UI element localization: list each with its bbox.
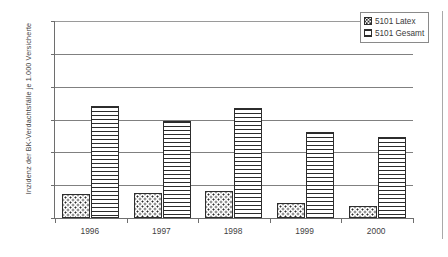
- x-tick-mark: [270, 218, 271, 223]
- bar-group: [127, 21, 199, 218]
- dotted-swatch-icon: [364, 17, 372, 25]
- y-axis-title: Inzidenz der BK-Verdachtsfälle je 1.000 …: [24, 4, 33, 214]
- x-tick-mark: [341, 218, 342, 223]
- x-tick-mark: [55, 218, 56, 223]
- bar-gesamt[interactable]: [234, 108, 262, 218]
- x-tick-label: 1996: [60, 226, 120, 236]
- legend-item-label: 5101 Latex: [375, 17, 416, 26]
- x-tick-mark: [198, 218, 199, 223]
- bar-latex[interactable]: [62, 194, 90, 218]
- bar-group: [198, 21, 270, 218]
- bar-gesamt[interactable]: [306, 132, 334, 218]
- bar-latex[interactable]: [205, 191, 233, 218]
- x-tick-label: 1999: [275, 226, 335, 236]
- legend-item-label: 5101 Gesamt: [375, 29, 424, 38]
- x-tick-label: 1998: [203, 226, 263, 236]
- hlines-swatch-icon: [364, 29, 372, 37]
- x-tick-label: 1997: [131, 226, 191, 236]
- bar-latex[interactable]: [134, 193, 162, 218]
- bar-chart: Inzidenz der BK-Verdachtsfälle je 1.000 …: [0, 0, 448, 257]
- bar-latex[interactable]: [277, 203, 305, 218]
- bars-layer: [55, 21, 413, 218]
- bar-latex[interactable]: [349, 206, 377, 218]
- bar-gesamt[interactable]: [163, 121, 191, 218]
- bar-gesamt[interactable]: [91, 106, 119, 218]
- legend-item-latex[interactable]: 5101 Latex: [364, 15, 424, 27]
- x-tick-mark: [413, 218, 414, 223]
- bar-gesamt[interactable]: [378, 137, 406, 218]
- x-tick-mark: [127, 218, 128, 223]
- outer-frame-edge: [442, 11, 443, 239]
- bar-group: [341, 21, 413, 218]
- bar-group: [55, 21, 127, 218]
- bar-group: [270, 21, 342, 218]
- x-tick-label: 2000: [346, 226, 406, 236]
- chart-legend: 5101 Latex 5101 Gesamt: [360, 12, 429, 43]
- legend-item-gesamt[interactable]: 5101 Gesamt: [364, 27, 424, 39]
- plot-area: [54, 21, 413, 219]
